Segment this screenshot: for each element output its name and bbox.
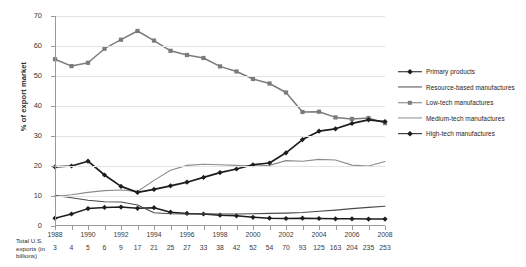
x-axis-label: 2002 bbox=[278, 231, 293, 238]
x-axis-tickmark bbox=[303, 226, 304, 230]
total-exports-value: 6 bbox=[103, 244, 107, 251]
data-point bbox=[85, 206, 90, 211]
total-exports-value: 253 bbox=[379, 244, 390, 251]
data-point bbox=[300, 110, 304, 114]
gridline bbox=[55, 196, 385, 197]
total-exports-value: 3 bbox=[53, 244, 57, 251]
data-point bbox=[218, 64, 222, 68]
y-axis-tick-label: 70 bbox=[18, 12, 42, 20]
legend-line bbox=[398, 87, 422, 88]
total-exports-label: Total U.S. exports (in billions) bbox=[16, 237, 56, 260]
total-exports-value: 52 bbox=[249, 244, 257, 251]
y-axis-ticks: 010203040506070 bbox=[18, 0, 42, 267]
y-axis-tickmark bbox=[51, 76, 55, 77]
series-high-tech-manufactures bbox=[52, 117, 387, 195]
y-axis-tick-label: 60 bbox=[18, 42, 42, 50]
y-axis-tickmark bbox=[51, 166, 55, 167]
data-point bbox=[316, 216, 321, 221]
data-point bbox=[333, 216, 338, 221]
x-axis-label: 1998 bbox=[212, 231, 227, 238]
data-point bbox=[333, 126, 338, 131]
data-point bbox=[151, 205, 156, 210]
x-axis-tickmark bbox=[88, 226, 89, 230]
data-point bbox=[251, 77, 255, 81]
legend-swatch bbox=[398, 113, 422, 123]
x-axis-label: 1994 bbox=[146, 231, 161, 238]
data-point bbox=[168, 183, 173, 188]
data-point bbox=[234, 69, 238, 73]
legend-item-medium-tech-manufactures[interactable]: Medium-tech manufactures bbox=[398, 111, 524, 127]
legend-item-high-tech-manufactures[interactable]: High-tech manufactures bbox=[398, 126, 524, 142]
total-exports-value: 33 bbox=[200, 244, 208, 251]
total-exports-value: 21 bbox=[150, 244, 158, 251]
y-axis-tickmark bbox=[51, 46, 55, 47]
gridline bbox=[55, 46, 385, 47]
data-point bbox=[168, 49, 172, 53]
data-point bbox=[151, 187, 156, 192]
data-point bbox=[69, 211, 74, 216]
data-point bbox=[118, 205, 123, 210]
data-point bbox=[267, 216, 272, 221]
data-point bbox=[184, 211, 189, 216]
data-point bbox=[69, 64, 73, 68]
legend-item-low-tech-manufactures[interactable]: Low-tech manufactures bbox=[398, 95, 524, 111]
legend-swatch bbox=[398, 129, 422, 139]
data-point bbox=[119, 38, 123, 42]
x-axis-label: 2008 bbox=[377, 231, 392, 238]
x-axis-label: 1990 bbox=[80, 231, 95, 238]
y-axis-line bbox=[55, 16, 56, 227]
data-point bbox=[234, 166, 239, 171]
data-point bbox=[317, 110, 321, 114]
x-axis-tickmark bbox=[352, 226, 353, 230]
data-point bbox=[135, 206, 140, 211]
data-point bbox=[267, 81, 271, 85]
total-exports-value: 42 bbox=[233, 244, 241, 251]
data-point bbox=[135, 29, 139, 33]
x-axis-tickmark bbox=[55, 226, 56, 230]
data-point bbox=[102, 205, 107, 210]
gridline bbox=[55, 136, 385, 137]
total-exports-value: 25 bbox=[167, 244, 175, 251]
x-axis-label: 1992 bbox=[113, 231, 128, 238]
legend-label: High-tech manufactures bbox=[426, 130, 495, 137]
x-axis-tickmark bbox=[204, 226, 205, 230]
legend-label: Low-tech manufactures bbox=[426, 99, 493, 106]
legend-line bbox=[398, 118, 422, 119]
x-axis-tickmark bbox=[270, 226, 271, 230]
legend-item-resource-based-manufactures[interactable]: Resource-based manufactures bbox=[398, 80, 524, 96]
y-axis-tick-label: 30 bbox=[18, 132, 42, 140]
total-exports-value: 5 bbox=[86, 244, 90, 251]
data-point bbox=[349, 216, 354, 221]
series-medium-tech-manufactures bbox=[55, 159, 385, 196]
x-axis-tickmark bbox=[336, 226, 337, 230]
data-point bbox=[283, 216, 288, 221]
x-axis-label: 1996 bbox=[179, 231, 194, 238]
x-axis-tickmark bbox=[121, 226, 122, 230]
legend-label: Resource-based manufactures bbox=[426, 84, 515, 91]
gridline bbox=[55, 106, 385, 107]
data-point bbox=[102, 47, 106, 51]
data-point bbox=[185, 53, 189, 57]
legend-swatch bbox=[398, 98, 422, 108]
data-point bbox=[250, 215, 255, 220]
data-point bbox=[184, 180, 189, 185]
x-axis-tickmark bbox=[286, 226, 287, 230]
total-exports-value: 235 bbox=[363, 244, 374, 251]
x-axis-tickmark bbox=[369, 226, 370, 230]
legend-diamond-marker-icon bbox=[407, 69, 413, 75]
x-axis-label: 2000 bbox=[245, 231, 260, 238]
legend-swatch bbox=[398, 82, 422, 92]
gridline bbox=[55, 76, 385, 77]
y-axis-tickmark bbox=[51, 136, 55, 137]
x-axis-tickmark bbox=[72, 226, 73, 230]
legend-diamond-marker-icon bbox=[407, 131, 413, 137]
series-primary-products bbox=[52, 205, 387, 222]
legend-item-primary-products[interactable]: Primary products bbox=[398, 64, 524, 80]
data-point bbox=[217, 213, 222, 218]
total-exports-value: 163 bbox=[330, 244, 341, 251]
plot-area bbox=[55, 16, 385, 226]
legend-square-marker-icon bbox=[408, 101, 412, 105]
total-exports-value: 38 bbox=[216, 244, 224, 251]
legend-label: Medium-tech manufactures bbox=[426, 115, 505, 122]
gridline bbox=[55, 166, 385, 167]
